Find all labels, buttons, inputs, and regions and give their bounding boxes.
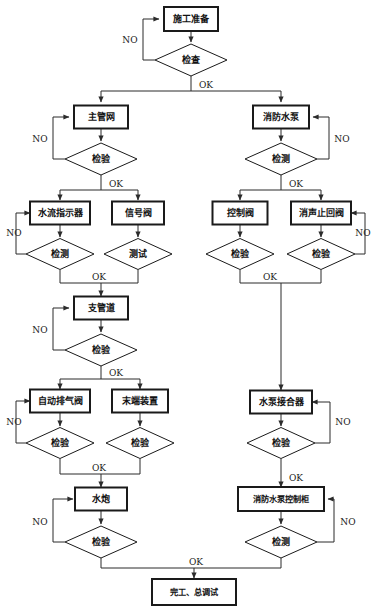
check-pump-adapter-no-loop — [312, 402, 330, 443]
node-check_branch_pipe: 检验 — [65, 334, 137, 366]
check-start-no-loop — [143, 19, 159, 60]
node-control_valve: 控制阀 — [213, 202, 268, 225]
label-no-check-water-cannon: NO — [32, 517, 47, 527]
node-check_pump_cabinet: 检测 — [245, 526, 317, 558]
node-label-check_end_device: 检验 — [131, 437, 150, 448]
node-check_flow_indicator: 检测 — [26, 239, 94, 270]
node-signal_valve: 信号阀 — [112, 202, 164, 225]
node-check_start: 检查 — [155, 44, 227, 76]
check-main-pipe-no-loop — [53, 117, 69, 159]
node-label-flow_indicator: 水流指示器 — [38, 207, 84, 218]
node-label-check_pump_cabinet: 检测 — [272, 536, 290, 547]
node-label-check_water_cannon: 检验 — [92, 536, 111, 547]
label-no-check-pump-cabinet: NO — [340, 517, 355, 527]
label-ok-check-fire-pump: OK — [289, 179, 303, 189]
label-ok-check-start: OK — [199, 80, 213, 90]
node-label-pump_adapter: 水泵接合器 — [259, 396, 305, 407]
label-no-check-auto-air: NO — [6, 417, 21, 427]
node-label-check_control_valve: 检验 — [231, 248, 250, 259]
node-label-check_fire_pump: 检测 — [272, 153, 290, 164]
flowchart-canvas: 施工准备检查主管网检验消防水泵检测水流指示器检测信号阀测试控制阀检验消声止回阀检… — [0, 0, 373, 616]
node-label-start: 施工准备 — [173, 13, 210, 24]
node-label-check_silent_valve: 检验 — [312, 248, 331, 259]
node-label-silent_check_valve: 消声止回阀 — [299, 207, 344, 218]
node-label-water_cannon: 水炮 — [92, 493, 110, 504]
node-label-signal_valve: 信号阀 — [125, 207, 152, 218]
label-ok-bottom: OK — [189, 557, 203, 567]
node-fire_pump: 消防水泵 — [253, 106, 309, 129]
label-no-check-pump-adapter: NO — [335, 417, 350, 427]
label-no-check-branch-pipe: NO — [32, 325, 47, 335]
label-ok-left-row5: OK — [92, 463, 106, 473]
node-silent_check_valve: 消声止回阀 — [291, 202, 351, 225]
check-water-cannon-no-loop — [53, 499, 73, 542]
label-no-check-silent-valve: NO — [355, 228, 370, 238]
node-main_pipe: 主管网 — [74, 106, 128, 129]
node-auto_air_valve: 自动排气阀 — [30, 390, 90, 413]
node-check_water_cannon: 检验 — [65, 526, 137, 558]
label-ok-check-pump-adapter: OK — [289, 473, 303, 483]
node-start: 施工准备 — [164, 7, 218, 31]
label-ok-left-row3: OK — [92, 272, 106, 282]
node-test_signal_valve: 测试 — [104, 239, 172, 270]
check-fire-pump-no-loop — [313, 117, 329, 159]
node-label-check_flow_indicator: 检测 — [51, 248, 69, 259]
node-water_cannon: 水炮 — [75, 488, 127, 511]
node-label-test_signal_valve: 测试 — [129, 248, 147, 259]
label-no-check-fire-pump: NO — [334, 134, 349, 144]
node-label-fire_pump: 消防水泵 — [263, 111, 300, 122]
label-no-check-flow-indicator: NO — [6, 228, 21, 238]
node-label-check_auto_air_valve: 检验 — [51, 437, 70, 448]
node-check_silent_valve: 检验 — [287, 239, 355, 270]
flowchart-svg: 施工准备检查主管网检验消防水泵检测水流指示器检测信号阀测试控制阀检验消声止回阀检… — [0, 0, 373, 616]
node-pump_control_cabinet: 消防水泵控制柜 — [238, 487, 324, 511]
node-label-main_pipe: 主管网 — [88, 111, 115, 122]
node-finish: 完工、总调试 — [152, 579, 236, 605]
node-check_auto_air_valve: 检验 — [26, 428, 94, 459]
node-label-check_pump_adapter: 检验 — [272, 437, 291, 448]
node-label-control_valve: 控制阀 — [227, 207, 254, 218]
label-no-check-start: NO — [122, 35, 137, 45]
node-check_fire_pump: 检测 — [245, 143, 317, 175]
node-label-check_main_pipe: 检验 — [92, 153, 111, 164]
node-branch_pipe: 支管道 — [74, 297, 128, 320]
label-no-check-main-pipe: NO — [32, 134, 47, 144]
nodes-layer: 施工准备检查主管网检验消防水泵检测水流指示器检测信号阀测试控制阀检验消声止回阀检… — [26, 7, 355, 605]
node-pump_adapter: 水泵接合器 — [250, 391, 312, 414]
node-flow_indicator: 水流指示器 — [30, 202, 90, 225]
node-check_control_valve: 检验 — [206, 239, 274, 270]
node-label-check_start: 检查 — [182, 54, 201, 65]
node-label-auto_air_valve: 自动排气阀 — [38, 395, 83, 406]
check-branch-pipe-no-loop — [53, 308, 69, 350]
node-label-pump_control_cabinet: 消防水泵控制柜 — [253, 494, 309, 504]
node-end_device: 末端装置 — [112, 390, 168, 413]
label-ok-check-branch-pipe: OK — [109, 368, 123, 378]
node-check_end_device: 检验 — [106, 428, 174, 459]
node-label-end_device: 末端装置 — [121, 395, 158, 406]
right-row3-merge — [240, 270, 321, 283]
node-label-finish: 完工、总调试 — [170, 587, 219, 597]
node-check_main_pipe: 检验 — [65, 143, 137, 175]
node-check_pump_adapter: 检验 — [247, 428, 315, 459]
node-label-check_branch_pipe: 检验 — [92, 344, 111, 355]
node-label-branch_pipe: 支管道 — [87, 302, 115, 313]
label-ok-check-main-pipe: OK — [109, 179, 123, 189]
label-ok-right-row3: OK — [263, 272, 277, 282]
